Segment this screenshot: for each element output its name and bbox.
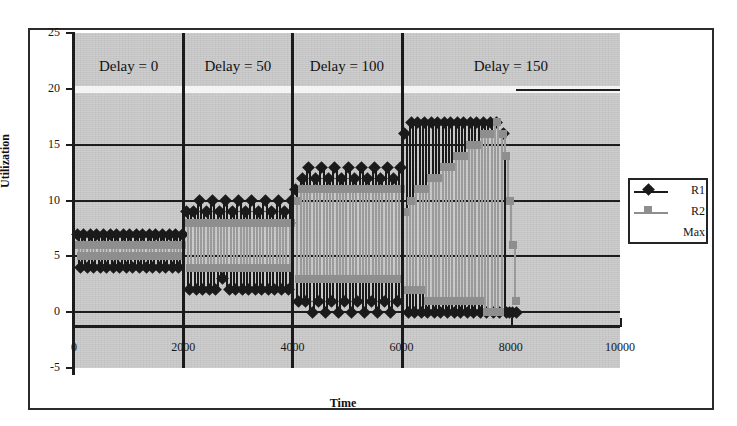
x-axis-line	[72, 325, 620, 328]
series-connector	[415, 189, 417, 290]
series-connector	[262, 223, 264, 268]
series-connector	[388, 189, 390, 278]
series-connector	[497, 122, 499, 312]
y-tick-label-10: 10	[20, 193, 60, 208]
y-tick-20	[66, 88, 75, 90]
series-connector	[368, 189, 370, 278]
data-point-r2	[434, 174, 442, 182]
series-connector	[455, 156, 457, 301]
series-connector	[296, 201, 298, 279]
series-connector	[381, 189, 383, 278]
series-connector	[203, 223, 205, 268]
series-connector	[285, 223, 287, 268]
data-point-r1	[206, 194, 219, 207]
series-connector	[256, 223, 258, 268]
y-axis-title: Utilization	[0, 134, 13, 188]
y-tick-5	[66, 255, 75, 257]
series-connector	[510, 201, 512, 246]
x-axis-title: Time	[0, 396, 686, 411]
series-connector	[359, 189, 361, 278]
series-connector	[336, 189, 338, 278]
series-connector	[395, 189, 397, 278]
data-point-r2	[512, 297, 520, 305]
series-connector	[501, 134, 503, 313]
legend-marker-r2	[644, 206, 652, 214]
series-connector	[200, 223, 202, 268]
series-connector	[194, 223, 196, 268]
series-connector	[419, 189, 421, 290]
y-tick-0	[66, 311, 75, 313]
panel-caption-0: Delay = 0	[74, 58, 183, 75]
series-connector	[279, 223, 281, 268]
data-point-r1	[355, 161, 368, 174]
series-connector	[316, 189, 318, 278]
data-point-r1	[302, 161, 315, 174]
data-point-r1	[381, 161, 394, 174]
data-point-r2	[499, 130, 507, 138]
series-connector	[464, 156, 466, 301]
series-connector	[451, 167, 453, 301]
series-connector	[461, 156, 463, 301]
series-connector	[349, 189, 351, 278]
series-connector	[514, 245, 516, 301]
series-connector	[187, 223, 189, 268]
data-point-r2	[502, 152, 510, 160]
data-point-r1	[272, 194, 285, 207]
series-connector	[319, 189, 321, 278]
series-connector	[217, 223, 219, 268]
series-connector	[259, 223, 261, 268]
series-connector	[233, 223, 235, 268]
series-connector	[342, 189, 344, 278]
series-connector	[355, 189, 357, 278]
panel-caption-3: Delay = 150	[402, 58, 620, 75]
data-point-r2	[417, 286, 425, 294]
legend-marker-r1	[642, 183, 655, 196]
series-connector	[300, 189, 302, 278]
data-point-r2	[496, 308, 504, 316]
data-point-r1	[342, 161, 355, 174]
data-point-r2	[460, 152, 468, 160]
data-point-r2	[473, 141, 481, 149]
series-connector	[471, 145, 473, 301]
data-point-r1	[306, 306, 319, 319]
series-connector	[432, 178, 434, 301]
series-connector	[491, 134, 493, 313]
data-point-r2	[486, 130, 494, 138]
series-connector	[197, 223, 199, 268]
x-tick-label-2000: 2000	[148, 340, 218, 355]
series-connector	[303, 189, 305, 278]
y-tick--5	[66, 367, 75, 369]
data-point-r2	[509, 241, 517, 249]
series-connector	[406, 212, 408, 290]
series-connector	[487, 134, 489, 313]
data-point-r2	[476, 297, 484, 305]
y-axis-line	[72, 33, 75, 375]
series-connector	[385, 189, 387, 278]
series-connector	[435, 178, 437, 301]
data-point-r1	[368, 161, 381, 174]
series-connector	[372, 189, 374, 278]
data-point-r1	[193, 194, 206, 207]
series-connector	[243, 223, 245, 268]
series-connector	[323, 189, 325, 278]
x-tick-label-10000: 10000	[585, 340, 655, 355]
series-connector	[326, 189, 328, 278]
legend-item-max: Max	[630, 223, 710, 245]
series-connector	[272, 223, 274, 268]
series-connector	[339, 189, 341, 278]
series-connector	[422, 189, 424, 290]
series-connector	[210, 223, 212, 268]
series-connector	[207, 223, 209, 268]
series-connector	[236, 223, 238, 268]
series-connector	[220, 223, 222, 268]
y-tick-label-5: 5	[20, 248, 60, 263]
data-point-r2	[506, 197, 514, 205]
series-connector	[276, 223, 278, 268]
x-tick-8000	[511, 318, 513, 327]
x-tick-6000	[402, 318, 404, 327]
x-tick-4000	[292, 318, 294, 327]
gridline-y-15	[74, 144, 620, 146]
series-connector	[507, 156, 509, 201]
series-connector	[223, 223, 225, 268]
series-connector	[412, 201, 414, 290]
